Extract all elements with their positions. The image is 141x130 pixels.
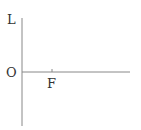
axes-diagram: L O F <box>0 0 141 130</box>
tick-label-f: F <box>47 77 56 90</box>
origin-label: O <box>6 66 17 79</box>
vertical-axis-label: L <box>7 13 16 26</box>
axes-svg <box>0 0 141 130</box>
